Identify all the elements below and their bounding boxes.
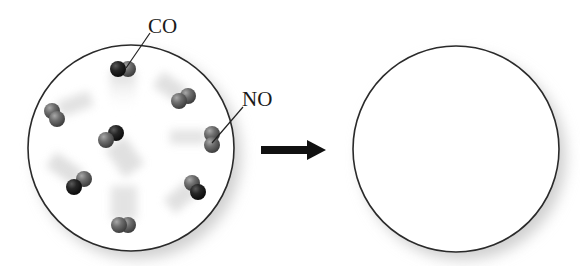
carbon-atom bbox=[110, 61, 126, 77]
molecule-no bbox=[111, 217, 136, 233]
nitrogen-atom bbox=[111, 217, 127, 233]
oxygen-atom bbox=[49, 111, 65, 127]
oxygen-atom bbox=[204, 137, 220, 153]
no-label: NO bbox=[242, 87, 272, 111]
molecule-no bbox=[204, 126, 220, 153]
molecule-co bbox=[110, 61, 136, 77]
reaction-arrow bbox=[261, 140, 326, 160]
co-label: CO bbox=[148, 14, 177, 38]
trail bbox=[170, 130, 206, 144]
trail bbox=[110, 72, 136, 112]
arrow-head-icon bbox=[307, 140, 326, 160]
carbon-atom bbox=[190, 184, 206, 200]
container-before bbox=[28, 45, 241, 259]
carbon-atom bbox=[66, 179, 82, 195]
container-outline bbox=[353, 46, 559, 252]
trail bbox=[111, 186, 137, 220]
arrow-shaft bbox=[261, 146, 309, 154]
container-after bbox=[353, 46, 566, 260]
oxygen-atom bbox=[98, 132, 114, 148]
reaction-diagram: CO NO bbox=[0, 0, 580, 266]
nitrogen-atom bbox=[171, 93, 187, 109]
